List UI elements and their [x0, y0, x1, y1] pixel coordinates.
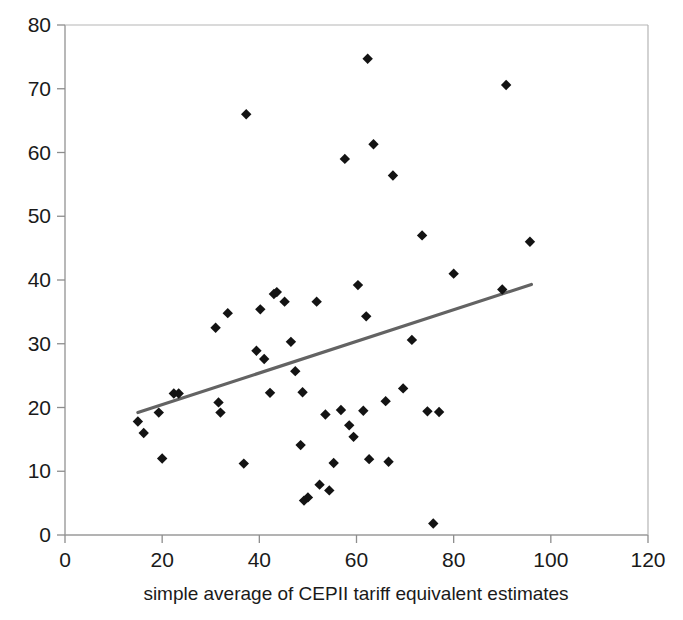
scatter-point	[139, 428, 149, 438]
scatter-point	[417, 230, 427, 240]
scatter-point	[388, 170, 398, 180]
scatter-point	[320, 409, 330, 419]
chart-canvas: 01020304050607080 020406080100120 simple…	[0, 0, 683, 620]
scatter-point	[336, 405, 346, 415]
scatter-point	[525, 237, 535, 247]
scatter-point	[348, 432, 358, 442]
scatter-point	[340, 154, 350, 164]
scatter-point	[422, 406, 432, 416]
x-tick-label: 20	[150, 548, 173, 571]
scatter-point	[154, 407, 164, 417]
y-tick-label: 80	[28, 13, 51, 36]
scatter-point	[364, 454, 374, 464]
scatter-point	[223, 308, 233, 318]
x-axis-tick-labels: 020406080100120	[59, 548, 665, 571]
scatter-point	[362, 54, 372, 64]
x-tick-label: 60	[345, 548, 368, 571]
scatter-point	[314, 479, 324, 489]
scatter-point	[210, 323, 220, 333]
scatter-point	[501, 80, 511, 90]
scatter-point	[251, 346, 261, 356]
y-axis-tick-labels: 01020304050607080	[28, 13, 51, 546]
scatter-point	[380, 396, 390, 406]
scatter-point	[398, 383, 408, 393]
x-tick-label: 40	[248, 548, 271, 571]
scatter-point	[215, 407, 225, 417]
scatter-point	[428, 518, 438, 528]
scatter-point	[448, 268, 458, 278]
scatter-point	[328, 458, 338, 468]
y-tick-label: 50	[28, 204, 51, 227]
scatter-point	[383, 456, 393, 466]
scatter-point	[259, 354, 269, 364]
x-tick-label: 0	[59, 548, 71, 571]
scatter-point	[434, 407, 444, 417]
scatter-point	[133, 416, 143, 426]
y-tick-label: 20	[28, 396, 51, 419]
scatter-point	[290, 366, 300, 376]
y-tick-label: 10	[28, 459, 51, 482]
scatter-point	[157, 453, 167, 463]
y-axis-ticks	[57, 25, 65, 535]
x-axis-title: simple average of CEPII tariff equivalen…	[143, 583, 568, 604]
x-tick-label: 120	[630, 548, 665, 571]
y-tick-label: 70	[28, 77, 51, 100]
scatter-point	[407, 335, 417, 345]
plot-frame	[65, 25, 648, 535]
scatter-point	[279, 296, 289, 306]
scatter-markers	[133, 54, 535, 529]
x-tick-label: 100	[533, 548, 568, 571]
x-tick-label: 80	[442, 548, 465, 571]
scatter-point	[324, 485, 334, 495]
scatter-point	[255, 304, 265, 314]
trendline	[138, 284, 532, 412]
scatter-point	[368, 139, 378, 149]
scatter-point	[358, 405, 368, 415]
scatter-point	[297, 387, 307, 397]
y-tick-label: 40	[28, 268, 51, 291]
scatter-point	[361, 311, 371, 321]
scatter-point	[241, 109, 251, 119]
scatter-point	[295, 440, 305, 450]
scatter-point	[344, 420, 354, 430]
scatter-point	[265, 388, 275, 398]
scatter-point	[213, 397, 223, 407]
y-tick-label: 0	[39, 523, 51, 546]
scatter-point	[311, 296, 321, 306]
x-axis-ticks	[65, 535, 648, 543]
trendline-segment	[138, 284, 532, 412]
y-tick-label: 30	[28, 332, 51, 355]
scatter-chart-figure: 01020304050607080 020406080100120 simple…	[0, 0, 683, 620]
y-tick-label: 60	[28, 141, 51, 164]
scatter-point	[286, 337, 296, 347]
scatter-point	[353, 280, 363, 290]
scatter-point	[239, 458, 249, 468]
